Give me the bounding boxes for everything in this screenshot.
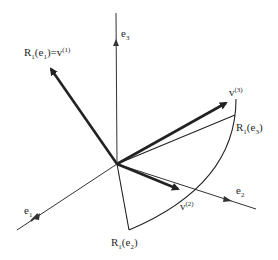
svg-text:v(2): v(2): [180, 200, 194, 212]
svg-text:R1(e1)=v(1): R1(e1)=v(1): [24, 46, 71, 61]
v2-vector: v(2): [117, 164, 194, 212]
e3-axis: e3: [113, 13, 130, 164]
r1-e2-line: R1(e2): [111, 164, 138, 251]
svg-text:e3: e3: [121, 27, 130, 42]
svg-text:R1(e2): R1(e2): [111, 236, 138, 251]
e3-arrow-icon: [113, 39, 119, 46]
svg-text:v(3): v(3): [229, 86, 243, 98]
svg-text:e1: e1: [24, 204, 33, 219]
e1-axis: e1: [17, 164, 117, 230]
svg-text:R1(e3): R1(e3): [236, 121, 263, 136]
e2-arrow-icon: [223, 196, 232, 202]
e3-label-sub: 3: [126, 34, 130, 42]
rotation-diagram: e3 e1 e2 R1(e3) R1(e2): [0, 0, 278, 260]
e1-label-sub: 1: [29, 211, 33, 219]
v1-vector: R1(e1)=v(1): [24, 46, 117, 164]
svg-text:e2: e2: [236, 184, 245, 199]
e2-label-sub: 2: [241, 191, 245, 199]
